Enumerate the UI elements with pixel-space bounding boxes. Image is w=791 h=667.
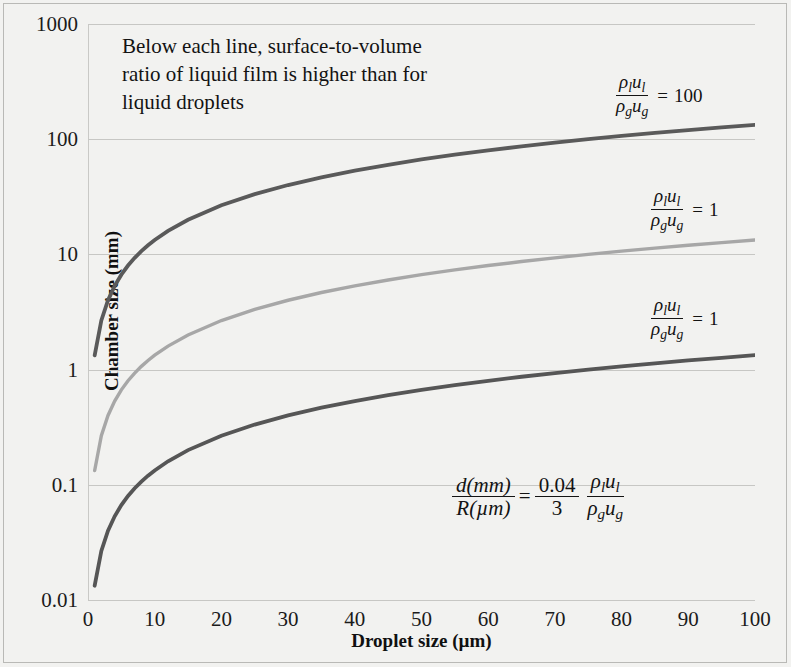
series-label-1-fraction: ρlul ρgug: [648, 295, 686, 342]
equation-ratio-den: ρgug: [583, 497, 627, 523]
series-label-1-equals: =: [692, 308, 703, 330]
x-tick-label: 0: [83, 607, 94, 632]
equation-coefficient: 0.04 3: [535, 474, 580, 519]
chart-equation: d(mm) R(µm) = 0.04 3 ρlul ρgug: [452, 470, 627, 523]
x-tick-label: 20: [211, 607, 232, 632]
series-label-100: ρlul ρgug = 100: [613, 72, 703, 119]
equation-ratio: ρlul ρgug: [583, 470, 627, 523]
y-tick-label: 100: [47, 127, 79, 152]
series-label-10-value: 1: [709, 199, 719, 221]
series-label-100-fraction: ρlul ρgug: [613, 72, 651, 119]
x-tick-label: 40: [344, 607, 365, 632]
series-label-100-numerator: ρlul: [616, 72, 648, 96]
series-label-10-numerator: ρlul: [651, 186, 683, 210]
series-label-10-equals: =: [692, 199, 703, 221]
equation-lhs: d(mm) R(µm): [452, 474, 515, 519]
x-tick-label: 30: [278, 607, 299, 632]
equation-lhs-num: d(mm): [452, 474, 515, 497]
gridline-y: [88, 600, 755, 601]
x-tick-label: 70: [544, 607, 565, 632]
x-tick-label: 60: [478, 607, 499, 632]
chart-annotation: Below each line, surface-to-volume ratio…: [122, 33, 452, 117]
equation-equals: =: [519, 484, 531, 509]
x-tick-label: 80: [611, 607, 632, 632]
series-label-10-denominator: ρgug: [648, 210, 686, 233]
series-label-100-value: 100: [674, 85, 703, 107]
series-label-1-denominator: ρgug: [648, 319, 686, 342]
y-tick-label: 1000: [36, 12, 78, 37]
series-label-100-denominator: ρgug: [613, 96, 651, 119]
y-tick-label: 10: [57, 242, 78, 267]
series-label-1-numerator: ρlul: [651, 295, 683, 319]
series-label-10: ρlul ρgug = 1: [648, 186, 719, 233]
figure-root: Chamber size (mm) Droplet size (µm) 0.01…: [0, 0, 791, 667]
y-tick-label: 0.01: [41, 588, 78, 613]
series-label-100-equals: =: [657, 85, 668, 107]
series-label-1: ρlul ρgug = 1: [648, 295, 719, 342]
equation-ratio-num: ρlul: [587, 470, 624, 497]
equation-coef-num: 0.04: [535, 474, 580, 497]
y-tick-label: 1: [68, 357, 79, 382]
x-axis-title: Droplet size (µm): [88, 630, 755, 652]
equation-lhs-den: R(µm): [452, 497, 514, 519]
x-tick-label: 10: [144, 607, 165, 632]
y-tick-label: 0.1: [52, 472, 78, 497]
x-tick-label: 50: [411, 607, 432, 632]
series-label-10-fraction: ρlul ρgug: [648, 186, 686, 233]
x-tick-label: 90: [678, 607, 699, 632]
curve-ratio-10: [95, 240, 755, 471]
curve-ratio-1: [95, 355, 755, 586]
x-tick-label: 100: [739, 607, 771, 632]
equation-coef-den: 3: [548, 497, 567, 519]
series-label-1-value: 1: [709, 308, 719, 330]
